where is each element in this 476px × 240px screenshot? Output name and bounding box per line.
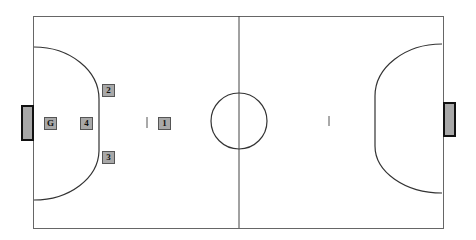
player-4: 4 [80, 117, 93, 130]
player-1: 1 [158, 117, 171, 130]
court-diagram [0, 0, 476, 240]
player-goalkeeper: G [44, 117, 57, 130]
right-goal [444, 103, 455, 136]
player-3: 3 [102, 151, 115, 164]
left-goal [22, 106, 33, 140]
player-2: 2 [102, 84, 115, 97]
